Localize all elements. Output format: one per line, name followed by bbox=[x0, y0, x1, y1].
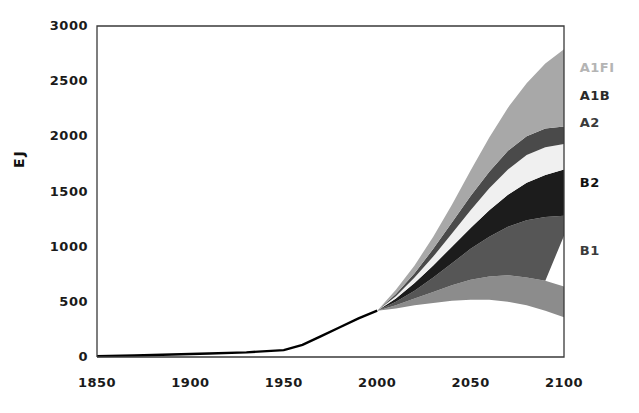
y-tick-2000: 2000 bbox=[50, 128, 88, 143]
scenario-label-b2: B2 bbox=[580, 175, 600, 190]
x-tick-1950: 1950 bbox=[254, 375, 314, 390]
historical-line-path bbox=[97, 311, 377, 356]
scenario-label-a1fi: A1FI bbox=[580, 60, 615, 75]
y-tick-0: 0 bbox=[78, 349, 88, 364]
x-tick-2000: 2000 bbox=[347, 375, 407, 390]
x-tick-1900: 1900 bbox=[160, 375, 220, 390]
chart-figure: EJ 050010001500200025003000 185019001950… bbox=[0, 0, 639, 413]
y-tick-3000: 3000 bbox=[50, 18, 88, 33]
y-tick-500: 500 bbox=[59, 294, 88, 309]
scenario-bands bbox=[377, 49, 564, 317]
y-axis-title: EJ bbox=[11, 148, 27, 168]
y-tick-1000: 1000 bbox=[50, 239, 88, 254]
scenario-label-a1b: A1B bbox=[580, 88, 611, 103]
historical-energy-line bbox=[97, 311, 377, 356]
x-tick-2050: 2050 bbox=[441, 375, 501, 390]
scenario-label-a2: A2 bbox=[580, 115, 600, 130]
y-tick-1500: 1500 bbox=[50, 184, 88, 199]
x-tick-2100: 2100 bbox=[534, 375, 594, 390]
x-tick-1850: 1850 bbox=[67, 375, 127, 390]
y-tick-2500: 2500 bbox=[50, 73, 88, 88]
chart-canvas bbox=[0, 0, 639, 413]
scenario-label-b1: B1 bbox=[580, 243, 600, 258]
